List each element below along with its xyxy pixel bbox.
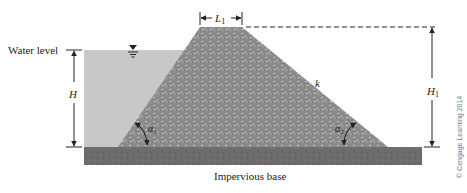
H-label: H [68, 88, 78, 100]
copyright-label: © Cengage Learning 2014 [456, 96, 464, 178]
k-label: k [315, 77, 321, 89]
water-level-label: Water level [8, 44, 58, 56]
H1-label: H1 [426, 85, 439, 99]
impervious-base-label: Impervious base [214, 170, 287, 182]
dam-diagram: Water level H L1 k H1 α1 α2 Impervious b… [0, 0, 467, 193]
L1-label: L1 [214, 12, 225, 26]
impervious-base [84, 147, 422, 165]
